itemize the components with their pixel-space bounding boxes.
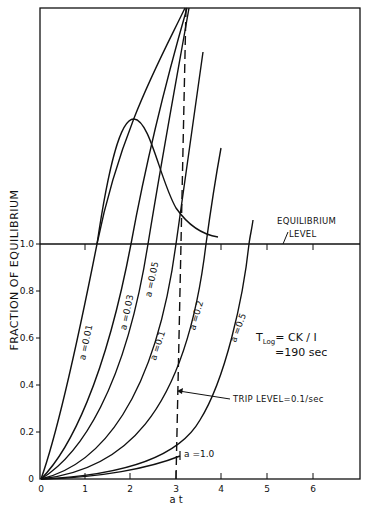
tau-equation: = CK / I bbox=[275, 331, 317, 344]
x-tick-2: 2 bbox=[127, 484, 133, 494]
tau-formula: TLog= CK / I bbox=[256, 331, 317, 346]
curve-a-0.5 bbox=[41, 220, 253, 479]
y-tick-1.0: 1.0 bbox=[20, 239, 34, 249]
y-tick-0.6: 0.6 bbox=[20, 333, 34, 343]
tau-symbol: T bbox=[256, 331, 263, 344]
envelope-curve bbox=[97, 119, 218, 244]
trip-level-label: TRIP LEVEL=0.1/sec bbox=[233, 394, 324, 404]
y-tick-0.4: 0.4 bbox=[20, 380, 34, 390]
curve-a-0.1 bbox=[41, 52, 203, 479]
x-tick-4: 4 bbox=[218, 484, 224, 494]
tau-value: =190 sec bbox=[275, 346, 327, 359]
chart-canvas bbox=[0, 0, 368, 509]
equilibrium-pointer bbox=[283, 232, 288, 244]
tau-subscript: Log bbox=[263, 338, 276, 346]
x-tick-3: 3 bbox=[173, 484, 179, 494]
x-tick-0: 0 bbox=[38, 484, 44, 494]
y-tick-0: 0 bbox=[28, 474, 34, 484]
x-tick-5: 5 bbox=[264, 484, 270, 494]
y-tick-0.8: 0.8 bbox=[20, 286, 34, 296]
y-axis-label: FRACTION OF EQUILIBRIUM bbox=[8, 189, 21, 350]
equilibrium-label: EQUILIBRIUM bbox=[277, 216, 336, 226]
y-tick-0.2: 0.2 bbox=[20, 427, 34, 437]
x-tick-1: 1 bbox=[82, 484, 88, 494]
x-tick-6: 6 bbox=[310, 484, 316, 494]
curve-label-a-1.0: a =1.0 bbox=[184, 449, 214, 459]
level-label: LEVEL bbox=[289, 229, 317, 239]
trip-arrow-line bbox=[179, 391, 230, 399]
x-axis-label: a t bbox=[169, 494, 182, 505]
